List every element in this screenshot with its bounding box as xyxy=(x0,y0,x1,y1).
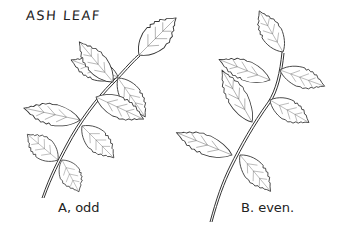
leaflet-b-lower-left xyxy=(172,124,235,165)
leaflet-b-top-left xyxy=(250,6,292,58)
leaflet-b-upper-right xyxy=(265,90,315,131)
leaf-a xyxy=(20,8,185,198)
leaflet-a-lower-right xyxy=(74,118,122,166)
leaflet-b-top-right xyxy=(277,60,328,95)
leaflet-a-bottom-left xyxy=(20,126,65,169)
leaflet-a-bottom-right xyxy=(53,155,89,197)
leaflet-b-lower-right xyxy=(232,148,279,198)
illustration-title: ASH LEAF xyxy=(25,8,101,23)
label-a: A, odd xyxy=(58,200,100,215)
leaf-b xyxy=(172,6,328,222)
leaflet-a-mid-left xyxy=(21,98,82,131)
label-b: B. even. xyxy=(241,200,294,215)
illustration-canvas xyxy=(0,0,348,232)
